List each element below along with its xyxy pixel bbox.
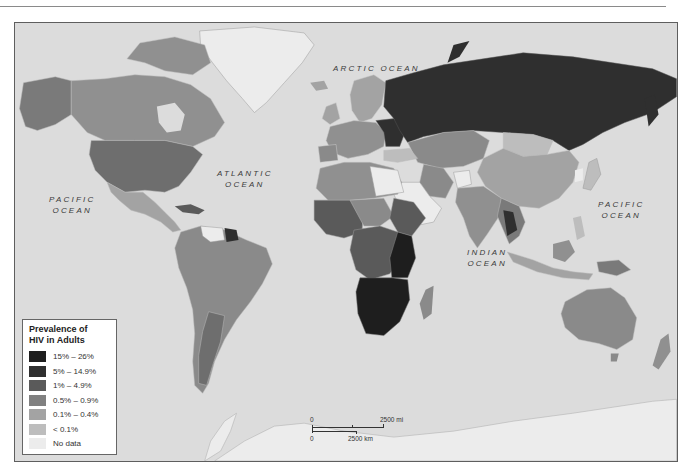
papua-new-guinea xyxy=(597,260,631,276)
legend-item: 1% – 4.9% xyxy=(29,379,110,392)
legend: Prevalence of HIV in Adults 15% – 26% 5%… xyxy=(22,319,117,455)
caribbean-islands xyxy=(175,204,205,214)
legend-title: Prevalence of HIV in Adults xyxy=(29,324,110,346)
india xyxy=(456,186,502,248)
antarctica xyxy=(215,399,677,461)
page-header-rule xyxy=(0,6,666,7)
australia xyxy=(561,288,637,350)
world-map: ARCTIC OCEAN ATLANTICOCEAN PACIFICOCEAN … xyxy=(14,22,678,462)
legend-swatch xyxy=(29,409,46,420)
new-zealand xyxy=(653,334,671,370)
greenland xyxy=(200,27,314,113)
tasmania xyxy=(611,353,619,361)
japan xyxy=(583,158,601,190)
indian-ocean-label: INDIANOCEAN xyxy=(467,247,507,269)
legend-item: 15% – 26% xyxy=(29,350,110,363)
atlantic-ocean-label: ATLANTICOCEAN xyxy=(217,168,273,190)
madagascar xyxy=(420,286,434,320)
borneo xyxy=(553,240,575,262)
philippines xyxy=(573,216,585,240)
pacific-ocean-east-label: PACIFICOCEAN xyxy=(598,199,644,221)
legend-item: < 0.1% xyxy=(29,423,110,436)
canada-arctic-islands xyxy=(127,37,211,75)
legend-swatch xyxy=(29,438,46,449)
legend-swatch xyxy=(29,424,46,435)
scale-line-miles xyxy=(312,427,384,428)
legend-item: 5% – 14.9% xyxy=(29,365,110,378)
canada xyxy=(71,75,224,147)
iberia xyxy=(318,144,338,162)
legend-swatch xyxy=(29,380,46,391)
southern-africa xyxy=(356,278,410,336)
iceland xyxy=(310,81,328,91)
south-america xyxy=(175,226,273,393)
scale-tick xyxy=(352,425,353,428)
arctic-ocean-label: ARCTIC OCEAN xyxy=(333,63,420,74)
legend-swatch xyxy=(29,366,46,377)
legend-swatch xyxy=(29,395,46,406)
legend-item: No data xyxy=(29,437,110,450)
pacific-ocean-west-label: PACIFICOCEAN xyxy=(49,194,95,216)
scandinavia xyxy=(350,75,386,123)
united-states xyxy=(89,140,202,192)
indonesia xyxy=(507,252,593,280)
scale-bar: 0 2500 mi 0 2500 km xyxy=(310,416,420,456)
uk-ireland xyxy=(322,103,340,125)
scale-tick xyxy=(356,431,357,434)
afghanistan xyxy=(454,170,472,188)
alaska xyxy=(19,77,71,131)
legend-item: 0.5% – 0.9% xyxy=(29,394,110,407)
legend-item: 0.1% – 0.4% xyxy=(29,408,110,421)
scale-line-km xyxy=(312,431,357,432)
legend-swatch xyxy=(29,351,46,362)
guyana xyxy=(225,228,239,242)
libya-egypt xyxy=(370,166,404,196)
korea xyxy=(575,168,583,182)
scale-tick xyxy=(383,424,384,428)
novaya-zemlya xyxy=(448,41,470,63)
